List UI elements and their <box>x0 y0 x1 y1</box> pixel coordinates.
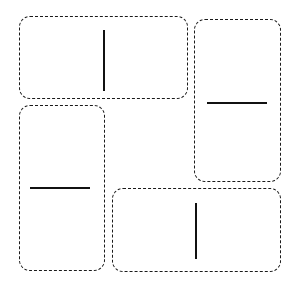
stroke-vertical-bottom-right <box>195 203 197 259</box>
panel-top-right[interactable] <box>194 19 281 182</box>
stroke-horizontal-top-right <box>207 102 267 104</box>
stroke-vertical-top-left <box>103 30 105 91</box>
stroke-horizontal-bottom-left <box>30 187 90 189</box>
figure-canvas <box>0 0 299 291</box>
